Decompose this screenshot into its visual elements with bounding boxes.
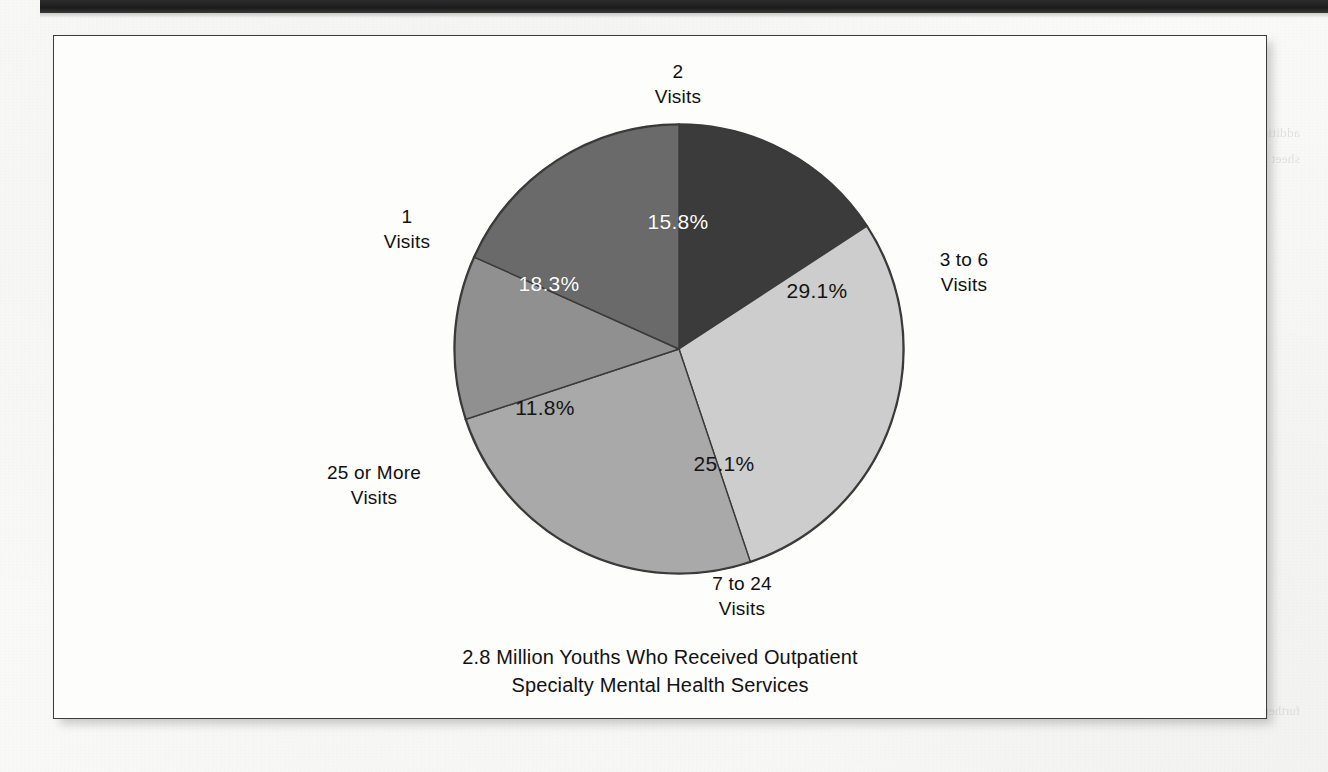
pie-slice-category-label: 25 or More Visits — [327, 460, 421, 510]
pie-slice-percent-label: 15.8% — [647, 210, 708, 234]
figure-frame: 15.8%2 Visits29.1%3 to 6 Visits25.1%7 to… — [53, 35, 1267, 719]
pie-chart: 15.8%2 Visits29.1%3 to 6 Visits25.1%7 to… — [54, 36, 1266, 718]
scanned-page: of the ghost text bleeding through the s… — [0, 0, 1328, 772]
pie-slice-percent-label: 11.8% — [515, 396, 575, 420]
pie-slice-percent-label: 18.3% — [518, 272, 579, 296]
pie-slice-group — [454, 124, 904, 574]
pie-chart-svg — [453, 123, 905, 575]
pie-slice-percent-label: 25.1% — [693, 452, 754, 476]
pie-slice-category-label: 2 Visits — [655, 59, 701, 109]
pie-slice-percent-label: 29.1% — [786, 279, 847, 303]
pie-slice-category-label: 3 to 6 Visits — [940, 247, 989, 297]
pie-slice-category-label: 7 to 24 Visits — [712, 571, 772, 621]
scan-top-black-strip — [40, 0, 1328, 13]
pie-slice-category-label: 1 Visits — [384, 204, 430, 254]
figure-caption: 2.8 Million Youths Who Received Outpatie… — [280, 643, 1040, 699]
scan-top-strip-shadow — [40, 13, 1328, 18]
